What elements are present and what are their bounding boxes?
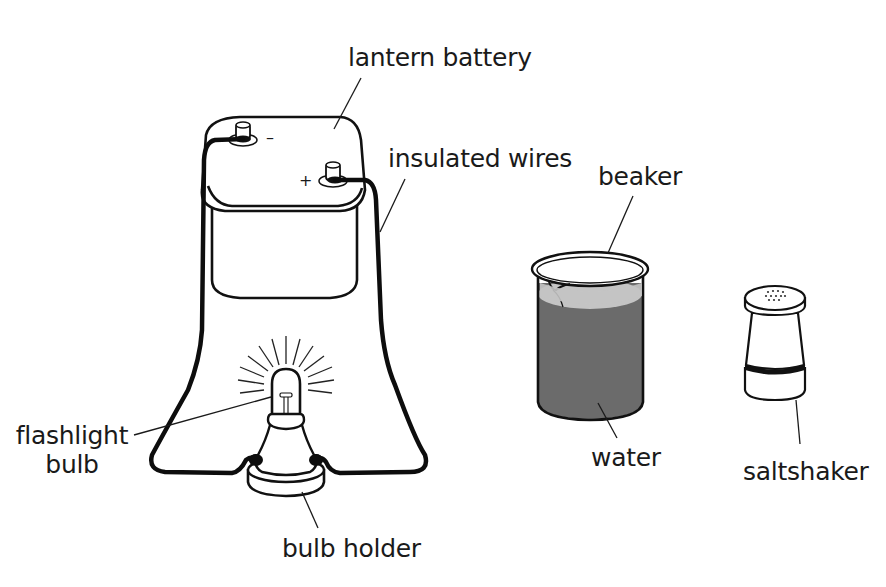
label-lantern-battery: lantern battery [348,44,532,73]
saltshaker [745,286,805,400]
label-insulated-wires: insulated wires [388,145,572,174]
flashlight-bulb [238,336,334,418]
label-saltshaker: saltshaker [743,458,869,487]
label-water: water [591,444,661,473]
bulb-holder [248,414,324,496]
positive-sign: + [299,171,312,190]
label-flashlight-bulb: flashlight bulb [14,422,130,480]
circuit-diagram [0,0,886,587]
negative-sign: – [266,128,274,147]
lantern-battery [202,117,365,298]
label-beaker: beaker [598,163,682,192]
label-flashlight-line1: flashlight [14,422,130,451]
beaker [532,252,648,420]
label-flashlight-line2: bulb [14,451,130,480]
label-bulb-holder: bulb holder [282,535,421,564]
